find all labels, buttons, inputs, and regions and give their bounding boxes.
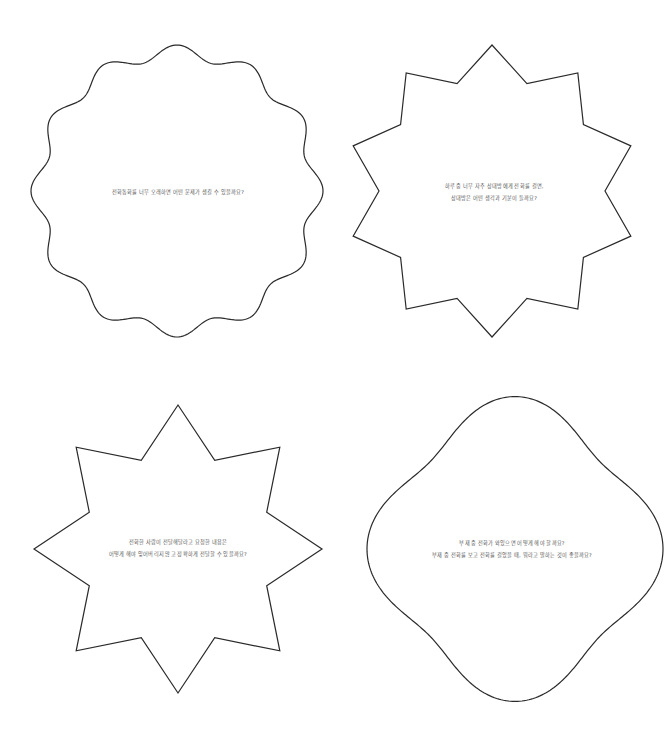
card-question-3: 전화한 사람이 전달해달라고 요청한 내용은 어떻게 해야 잊어버리지 않고 정… xyxy=(109,536,247,560)
question-line: 하루 중 너무 자주 상대방에게 전화를 걸면, xyxy=(445,180,544,192)
question-line: 전화한 사람이 전달해달라고 요청한 내용은 xyxy=(109,536,247,548)
card-question-1: 전화통화를 너무 오래하면 어떤 문제가 생길 수 있을까요? xyxy=(112,186,244,198)
question-line: 상대방은 어떤 생각과 기분이 들까요? xyxy=(445,192,544,204)
question-line: 전화통화를 너무 오래하면 어떤 문제가 생길 수 있을까요? xyxy=(112,186,244,198)
question-line: 부재 중 전화를 보고 전화를 걸었을 때, 뭐라고 말하는 것이 좋을까요? xyxy=(432,549,592,561)
card-question-2: 하루 중 너무 자주 상대방에게 전화를 걸면, 상대방은 어떤 생각과 기분이… xyxy=(445,180,544,204)
question-line: 어떻게 해야 잊어버리지 않고 정확하게 전달할 수 있을까요? xyxy=(109,548,247,560)
shapes-canvas xyxy=(0,0,668,734)
card-question-4: 부재 중 전화가 와있으면 어떻게 해야 할까요? 부재 중 전화를 보고 전화… xyxy=(432,537,592,561)
question-line: 부재 중 전화가 와있으면 어떻게 해야 할까요? xyxy=(432,537,592,549)
